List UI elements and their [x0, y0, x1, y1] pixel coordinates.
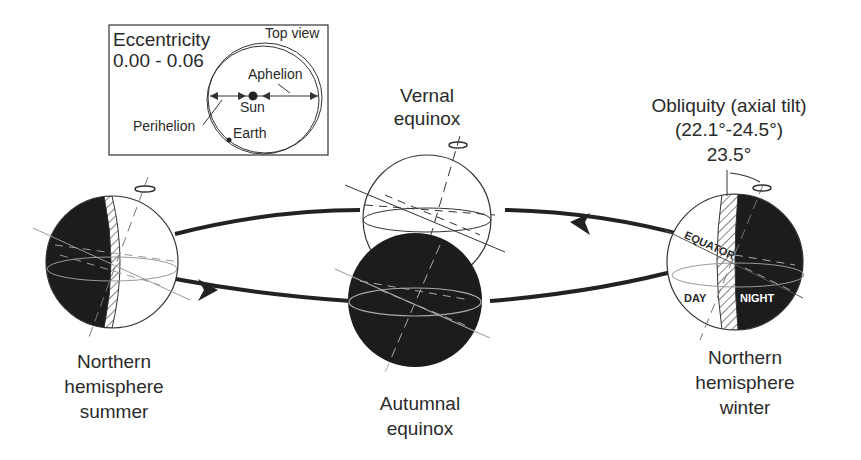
orbit-segment-upper-left — [175, 210, 360, 234]
spin-arrow-icon — [135, 186, 155, 192]
tilt-angle-arc — [730, 173, 760, 182]
summer-label-line3: summer — [80, 401, 149, 422]
winter-label-line2: hemisphere — [695, 372, 794, 393]
obliquity-range: (22.1°-24.5°) — [675, 119, 783, 140]
vernal-label-line2: equinox — [394, 108, 461, 129]
autumnal-label-line1: Autumnal — [380, 393, 460, 414]
vernal-label-line1: Vernal — [400, 85, 454, 106]
eccentricity-inset: Eccentricity 0.00 - 0.06 Top view Apheli… — [109, 25, 328, 155]
autumnal-label-line2: equinox — [387, 418, 454, 439]
orbit-arrow-right-icon — [198, 279, 218, 301]
orbital-diagram: Eccentricity 0.00 - 0.06 Top view Apheli… — [0, 0, 861, 460]
earth-dot — [227, 138, 232, 143]
night-label: NIGHT — [740, 292, 775, 304]
top-view-label: Top view — [265, 25, 320, 41]
orbit-segment-lower-right — [490, 267, 690, 301]
summer-label-line1: Northern — [77, 351, 151, 372]
summer-globe — [33, 177, 190, 340]
day-label: DAY — [684, 292, 707, 304]
earth-label: Earth — [233, 125, 266, 141]
summer-label-line2: hemisphere — [64, 376, 163, 397]
aphelion-label: Aphelion — [248, 66, 303, 82]
eccentricity-range: 0.00 - 0.06 — [113, 50, 204, 71]
orbit-segment-upper-right — [505, 210, 690, 237]
winter-label-line3: winter — [719, 397, 771, 418]
obliquity-value: 23.5° — [707, 144, 752, 165]
winter-label-line1: Northern — [708, 347, 782, 368]
perihelion-label: Perihelion — [133, 118, 195, 134]
winter-globe: EQUATOR DAY NIGHT — [665, 170, 815, 340]
sun-label: Sun — [240, 99, 265, 115]
obliquity-label-line1: Obliquity (axial tilt) — [651, 95, 806, 116]
eccentricity-title: Eccentricity — [113, 29, 211, 50]
